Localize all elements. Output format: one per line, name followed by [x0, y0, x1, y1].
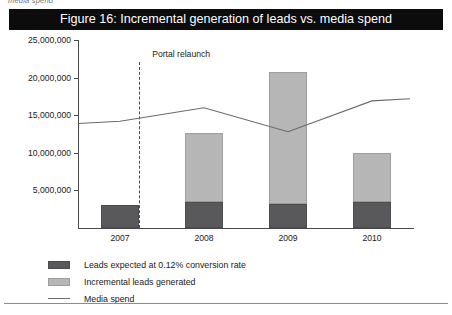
legend-label: Incremental leads generated: [84, 275, 196, 289]
figure-title: Figure 16: Incremental generation of lea…: [9, 9, 443, 30]
y-tick-label: 5,000,000: [33, 185, 71, 195]
x-tick-label-2009: 2009: [278, 233, 297, 243]
chart-legend: Leads expected at 0.12% conversion rateI…: [48, 258, 388, 309]
figure-container: media spend Figure 16: Incremental gener…: [0, 0, 452, 315]
media-spend-line: [78, 40, 414, 229]
y-tick-label: 10,000,000: [28, 148, 71, 158]
legend-swatch-spend-icon: [48, 298, 70, 299]
y-tick-label: 20,000,000: [28, 73, 71, 83]
x-tick-label-2010: 2010: [362, 233, 381, 243]
plot-area: 5,000,00010,000,00015,000,00020,000,0002…: [78, 40, 414, 229]
legend-label: Leads expected at 0.12% conversion rate: [84, 258, 246, 272]
legend-item-expected[interactable]: Leads expected at 0.12% conversion rate: [48, 258, 388, 272]
legend-swatch-expected-icon: [48, 261, 70, 269]
x-tick-label-2007: 2007: [110, 233, 129, 243]
legend-swatch-incremental-icon: [48, 278, 70, 286]
y-tick-label: 25,000,000: [28, 35, 71, 45]
x-tick-label-2008: 2008: [194, 233, 213, 243]
bottom-divider: [4, 303, 448, 304]
legend-item-incremental[interactable]: Incremental leads generated: [48, 275, 388, 289]
y-tick-label: 15,000,000: [28, 110, 71, 120]
figure-title-banner: Figure 16: Incremental generation of lea…: [9, 9, 443, 30]
caption-fragment: media spend: [8, 0, 53, 5]
